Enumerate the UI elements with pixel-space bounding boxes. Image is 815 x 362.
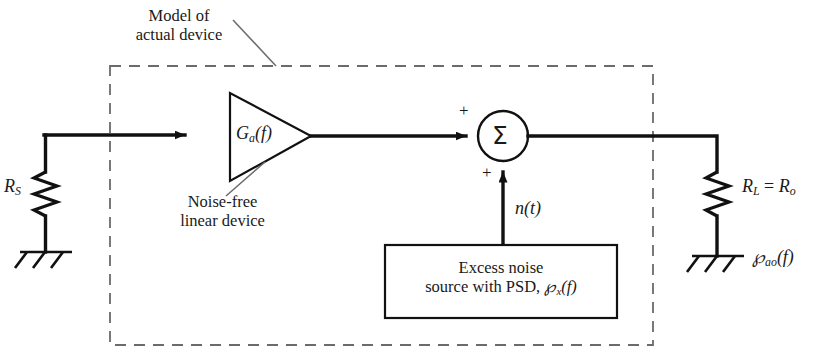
summer-plus-bottom: +	[482, 163, 492, 183]
gain-symbol: G	[236, 123, 249, 143]
output-psd-script-p-icon: ℘	[752, 246, 765, 267]
load-resistor-zigzag	[706, 172, 729, 216]
load-resistor-subscript: L	[753, 184, 760, 198]
source-resistor-subscript: S	[15, 184, 21, 198]
load-resistor-symbol: R	[742, 176, 753, 196]
summer-plus-left: +	[459, 101, 469, 121]
noise-box-line-1: Excess noise	[385, 258, 617, 277]
summer-to-load-wire	[528, 136, 717, 172]
model-label-line-1: Model of	[124, 6, 234, 25]
noise-free-linear-device-label: Noise-free linear device	[145, 192, 300, 231]
summer-sigma-symbol: Σ	[492, 121, 508, 151]
source-resistor-zigzag	[34, 172, 57, 216]
output-psd-label: ℘ao(f)	[752, 246, 794, 269]
psd-argument: (f)	[561, 277, 577, 296]
load-resistor-equals: =	[760, 176, 779, 196]
noise-signal-label: n(t)	[515, 198, 541, 219]
ground-symbol-left	[15, 252, 72, 268]
ground-symbol-right	[687, 256, 744, 272]
output-resistance-symbol: R	[779, 176, 790, 196]
device-label-line-1: Noise-free	[145, 192, 300, 211]
output-psd-argument: (f)	[777, 247, 794, 267]
noise-signal-argument: (t)	[524, 198, 541, 218]
excess-noise-source-text: Excess noise source with PSD, ℘x(f)	[385, 258, 617, 298]
load-resistor-label: RL = Ro	[742, 176, 796, 198]
source-resistor-label: RS	[4, 176, 21, 198]
noise-signal-symbol: n	[515, 198, 524, 218]
model-label-line-2: actual device	[124, 25, 234, 44]
figure-canvas: Model of actual device RS Ga(f) Noise-fr…	[0, 0, 815, 362]
output-psd-subscript: ao	[765, 255, 777, 269]
device-label-line-2: linear device	[145, 211, 300, 230]
diagram-vector-layer	[0, 0, 815, 362]
model-of-actual-device-label: Model of actual device	[124, 6, 234, 45]
psd-script-p-icon: ℘	[544, 277, 556, 296]
model-label-leader-line	[233, 20, 276, 66]
source-resistor-symbol: R	[4, 176, 15, 196]
noise-box-psd-prefix: source with PSD,	[425, 277, 544, 296]
output-resistance-subscript: o	[790, 184, 796, 198]
gain-argument: (f)	[255, 123, 272, 143]
noise-box-line-2: source with PSD, ℘x(f)	[385, 277, 617, 298]
amplifier-gain-label: Ga(f)	[236, 123, 272, 145]
